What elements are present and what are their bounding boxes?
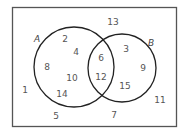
element-14: 14 <box>56 89 68 99</box>
element-13: 13 <box>107 17 118 27</box>
element-11: 11 <box>154 95 165 105</box>
venn-diagram: A B 2 4 8 10 14 6 12 3 9 15 13 1 5 7 11 <box>0 0 188 134</box>
element-5: 5 <box>53 111 59 121</box>
element-1: 1 <box>22 85 28 95</box>
set-b-label: B <box>148 38 154 48</box>
element-9: 9 <box>140 63 146 73</box>
set-a-label: A <box>33 34 40 44</box>
element-2: 2 <box>62 34 68 44</box>
element-12: 12 <box>95 72 106 82</box>
element-6: 6 <box>98 53 104 63</box>
element-15: 15 <box>119 81 130 91</box>
universe-rectangle <box>13 8 177 127</box>
element-3: 3 <box>123 44 129 54</box>
element-4: 4 <box>73 47 79 57</box>
element-7: 7 <box>111 110 117 120</box>
element-10: 10 <box>66 73 78 83</box>
element-8: 8 <box>44 62 50 72</box>
